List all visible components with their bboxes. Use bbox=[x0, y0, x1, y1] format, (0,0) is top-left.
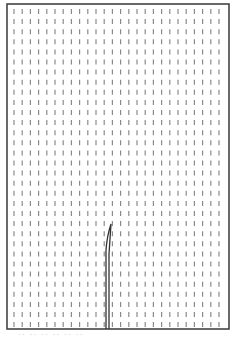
figure-caption: ·· ·· ·· ·· ·· ·· bbox=[18, 329, 83, 339]
crack-line bbox=[106, 224, 111, 329]
specimen-frame bbox=[7, 4, 229, 329]
specimen-diagram bbox=[0, 0, 233, 339]
dash-grid bbox=[14, 9, 219, 327]
